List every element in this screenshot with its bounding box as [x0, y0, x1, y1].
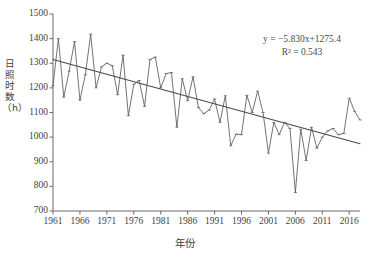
- y-tick-label: 1400: [14, 33, 48, 43]
- x-tick-label: 2016: [333, 216, 365, 226]
- y-tick-label: 1500: [14, 8, 48, 18]
- trend-line: [53, 60, 360, 144]
- sunshine-hours-chart: 日 照 时 数 （h） 年份 y = −5.830x+1275.4 R² = 0…: [0, 0, 370, 260]
- y-tick-label: 1300: [14, 57, 48, 67]
- y-tick-label: 700: [14, 205, 48, 215]
- y-tick-label: 900: [14, 156, 48, 166]
- y-tick-label: 800: [14, 180, 48, 190]
- y-tick-label: 1200: [14, 82, 48, 92]
- y-tick-label: 1100: [14, 107, 48, 117]
- y-tick-label: 1000: [14, 131, 48, 141]
- data-line: [53, 34, 360, 192]
- axis-lines: [53, 14, 360, 211]
